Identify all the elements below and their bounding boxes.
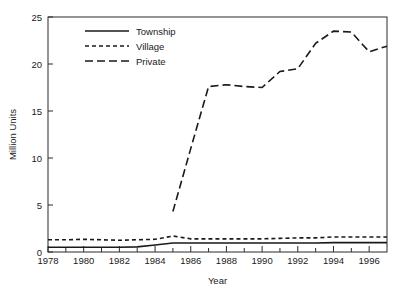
chart-figure: 0510152025 19781980198219841986198819901…	[0, 0, 401, 293]
legend-label-township: Township	[136, 26, 176, 37]
series-line-township	[48, 243, 387, 248]
axis-frame	[48, 17, 387, 252]
y-tick-label: 5	[37, 200, 42, 211]
y-axis-title: Million Units	[7, 109, 18, 160]
x-tick-label: 1996	[359, 255, 380, 266]
x-tick-label: 1980	[73, 255, 94, 266]
x-tick-label: 1984	[144, 255, 165, 266]
y-axis-tick-labels: 0510152025	[31, 12, 42, 258]
x-axis-title: Year	[208, 275, 227, 286]
data-series-group	[48, 31, 387, 247]
x-tick-label: 1986	[180, 255, 201, 266]
chart-legend: TownshipVillagePrivate	[85, 26, 176, 67]
legend-label-village: Village	[136, 41, 164, 52]
series-line-village	[48, 236, 387, 240]
series-line-private	[173, 31, 387, 211]
y-axis-ticks	[48, 17, 53, 252]
y-tick-label: 10	[31, 153, 42, 164]
x-tick-label: 1982	[109, 255, 130, 266]
x-tick-label: 1990	[252, 255, 273, 266]
x-tick-label: 1994	[323, 255, 344, 266]
line-chart-canvas: 0510152025 19781980198219841986198819901…	[0, 0, 401, 293]
legend-label-private: Private	[136, 56, 166, 67]
x-tick-label: 1988	[216, 255, 237, 266]
y-tick-label: 15	[31, 106, 42, 117]
x-axis-tick-labels: 1978198019821984198619881990199219941996	[37, 255, 379, 266]
x-tick-label: 1992	[287, 255, 308, 266]
y-tick-label: 25	[31, 12, 42, 23]
x-tick-label: 1978	[37, 255, 58, 266]
y-tick-label: 20	[31, 59, 42, 70]
